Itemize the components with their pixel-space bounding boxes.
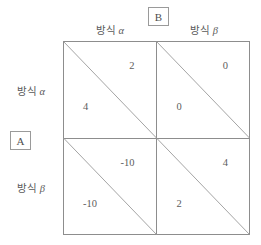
- column-player-payoff: -10: [121, 157, 135, 168]
- payoff-matrix-grid: 2 4 0 0 -10 -10 4 2: [63, 41, 250, 235]
- matrix-cell: 4 2: [157, 138, 251, 235]
- row-player-payoff: 0: [177, 101, 182, 112]
- row-header-alpha-symbol: α: [40, 86, 46, 97]
- row-header-alpha: 방식 α: [0, 83, 62, 98]
- column-header-alpha: 방식 α: [63, 22, 157, 37]
- matrix-cell: 0 0: [157, 41, 251, 138]
- player-b-label: B: [155, 11, 163, 23]
- column-player-payoff: 4: [223, 157, 228, 168]
- row-header-alpha-text: 방식: [17, 86, 40, 97]
- column-header-beta: 방식 β: [157, 22, 251, 37]
- column-header-beta-symbol: β: [213, 25, 218, 36]
- row-player-payoff: 2: [177, 198, 182, 209]
- matrix-cell: -10 -10: [63, 138, 157, 235]
- matrix-cell: 2 4: [63, 41, 157, 138]
- row-header-beta: 방식 β: [0, 180, 62, 195]
- column-player-payoff: 2: [129, 60, 134, 71]
- player-a-label: A: [16, 135, 24, 147]
- row-header-beta-text: 방식: [17, 183, 40, 194]
- player-a-label-box: A: [10, 131, 31, 150]
- column-header-beta-text: 방식: [190, 25, 213, 36]
- row-player-payoff: -10: [83, 198, 97, 209]
- row-player-payoff: 4: [83, 101, 88, 112]
- column-header-alpha-text: 방식: [96, 25, 119, 36]
- row-header-beta-symbol: β: [40, 183, 45, 194]
- column-player-payoff: 0: [223, 60, 228, 71]
- column-header-alpha-symbol: α: [119, 25, 125, 36]
- payoff-matrix-figure: B A 방식 α 방식 β 방식 α 방식 β: [0, 0, 261, 245]
